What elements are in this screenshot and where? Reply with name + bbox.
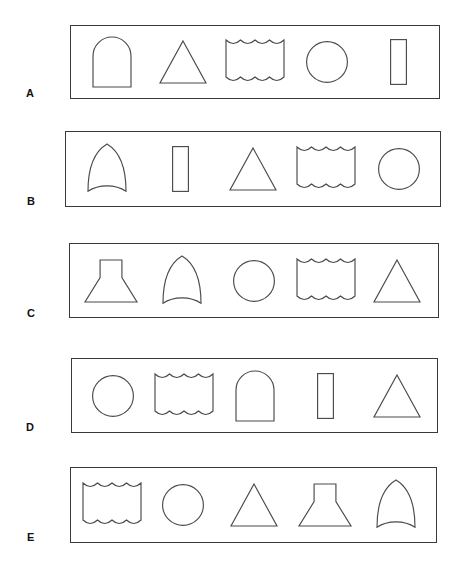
row-label-c: C bbox=[27, 308, 35, 319]
vertical-rectangle-shape[interactable] bbox=[151, 140, 209, 198]
wavy-edged-rectangle-shape[interactable] bbox=[297, 140, 355, 198]
row-label-b: B bbox=[27, 196, 35, 207]
funnel-trapezoid-shape[interactable] bbox=[82, 252, 140, 310]
circle-shape[interactable] bbox=[225, 252, 283, 310]
row-shape-list bbox=[65, 131, 441, 207]
row-label-a: A bbox=[26, 88, 34, 99]
wavy-edged-rectangle-shape[interactable] bbox=[83, 476, 141, 534]
vertical-rectangle-shape[interactable] bbox=[369, 33, 427, 91]
pointed-arch-shape[interactable] bbox=[78, 140, 136, 198]
triangle-shape[interactable] bbox=[368, 367, 426, 425]
shape-row-c[interactable] bbox=[69, 243, 439, 318]
circle-shape[interactable] bbox=[154, 476, 212, 534]
round-arch-shape[interactable] bbox=[226, 367, 284, 425]
row-label-d: D bbox=[26, 422, 34, 433]
shape-row-d[interactable] bbox=[71, 358, 438, 433]
triangle-shape[interactable] bbox=[368, 252, 426, 310]
round-arch-shape[interactable] bbox=[83, 33, 141, 91]
circle-shape[interactable] bbox=[298, 33, 356, 91]
row-label-e: E bbox=[27, 532, 34, 543]
row-shape-list bbox=[70, 467, 437, 543]
wavy-edged-rectangle-shape[interactable] bbox=[226, 33, 284, 91]
wavy-edged-rectangle-shape[interactable] bbox=[297, 252, 355, 310]
shape-row-a[interactable] bbox=[70, 25, 440, 99]
circle-shape[interactable] bbox=[370, 140, 428, 198]
circle-shape[interactable] bbox=[84, 367, 142, 425]
triangle-shape[interactable] bbox=[225, 476, 283, 534]
triangle-shape[interactable] bbox=[154, 33, 212, 91]
triangle-shape[interactable] bbox=[224, 140, 282, 198]
row-shape-list bbox=[71, 358, 438, 433]
wavy-edged-rectangle-shape[interactable] bbox=[155, 367, 213, 425]
pointed-arch-shape[interactable] bbox=[153, 252, 211, 310]
row-shape-list bbox=[69, 243, 439, 318]
shape-row-b[interactable] bbox=[65, 131, 441, 207]
funnel-trapezoid-shape[interactable] bbox=[296, 476, 354, 534]
pointed-arch-shape[interactable] bbox=[367, 476, 425, 534]
shape-row-e[interactable] bbox=[70, 467, 437, 543]
shape-sequence-sheet: ABCDE bbox=[0, 0, 464, 570]
vertical-rectangle-shape[interactable] bbox=[297, 367, 355, 425]
row-shape-list bbox=[70, 25, 440, 99]
